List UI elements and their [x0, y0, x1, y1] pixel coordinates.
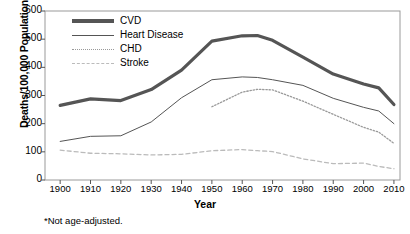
x-tick-label: 2000	[347, 183, 381, 194]
cvd-mortality-chart: Deaths/100,000 Population 01002003004005…	[0, 0, 410, 234]
legend-swatch-heart-disease-icon	[72, 29, 114, 41]
x-tick-label: 1950	[195, 183, 229, 194]
series-line-chd	[212, 89, 394, 143]
x-tick-label: 1930	[134, 183, 168, 194]
x-tick-label: 1900	[43, 183, 77, 194]
legend-item-heart-disease: Heart Disease	[72, 28, 183, 42]
x-tick-label: 1970	[256, 183, 290, 194]
chart-footnote: *Not age-adjusted.	[44, 215, 123, 226]
x-tick-label: 1980	[286, 183, 320, 194]
x-tick-label: 2010	[377, 183, 410, 194]
legend-item-cvd: CVD	[72, 14, 183, 28]
x-axis-tick-labels: 1900191019201930194019501960197019801990…	[0, 183, 410, 199]
legend-swatch-stroke-icon	[72, 57, 114, 69]
x-tick-label: 1910	[74, 183, 108, 194]
series-line-stroke	[60, 150, 394, 169]
chart-legend: CVD Heart Disease CHD Stroke	[72, 14, 183, 70]
legend-swatch-cvd-icon	[72, 15, 114, 27]
x-tick-label: 1960	[225, 183, 259, 194]
legend-label-stroke: Stroke	[120, 58, 149, 68]
legend-label-cvd: CVD	[120, 16, 141, 26]
legend-label-chd: CHD	[120, 44, 142, 54]
x-axis-title: Year	[0, 198, 410, 210]
legend-label-heart-disease: Heart Disease	[120, 30, 183, 40]
legend-swatch-chd-icon	[72, 43, 114, 55]
x-tick-label: 1940	[165, 183, 199, 194]
x-tick-label: 1990	[316, 183, 350, 194]
legend-item-stroke: Stroke	[72, 56, 183, 70]
series-line-heart-disease	[60, 77, 394, 142]
x-tick-label: 1920	[104, 183, 138, 194]
legend-item-chd: CHD	[72, 42, 183, 56]
